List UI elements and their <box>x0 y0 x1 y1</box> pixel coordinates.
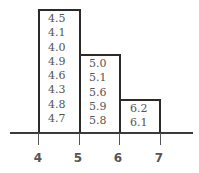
value: 4.9 <box>48 55 66 69</box>
value: 4.0 <box>48 41 66 55</box>
value: 5.9 <box>89 100 107 114</box>
value: 6.2 <box>130 102 148 116</box>
value: 5.6 <box>89 86 107 100</box>
bar-5-6-values: 5.0 5.1 5.6 5.9 5.8 <box>89 57 107 128</box>
value: 4.1 <box>48 26 66 40</box>
value: 5.8 <box>89 114 107 128</box>
x-tick-label-7: 7 <box>151 151 167 165</box>
value: 5.1 <box>89 71 107 85</box>
value: 4.3 <box>48 83 66 97</box>
x-tick-5 <box>79 133 80 145</box>
value: 5.0 <box>89 57 107 71</box>
bar-6-7-values: 6.2 6.1 <box>130 102 148 131</box>
value: 4.6 <box>48 69 66 83</box>
value: 6.1 <box>130 116 148 130</box>
x-tick-label-6: 6 <box>110 151 126 165</box>
x-tick-7 <box>160 133 161 145</box>
x-tick-label-4: 4 <box>30 151 46 165</box>
x-tick-label-5: 5 <box>70 151 86 165</box>
value: 4.5 <box>48 12 66 26</box>
value: 4.8 <box>48 98 66 112</box>
x-tick-4 <box>38 133 39 145</box>
value: 4.7 <box>48 112 66 126</box>
x-tick-6 <box>119 133 120 145</box>
bar-4-5-values: 4.5 4.1 4.0 4.9 4.6 4.3 4.8 4.7 <box>48 12 66 126</box>
